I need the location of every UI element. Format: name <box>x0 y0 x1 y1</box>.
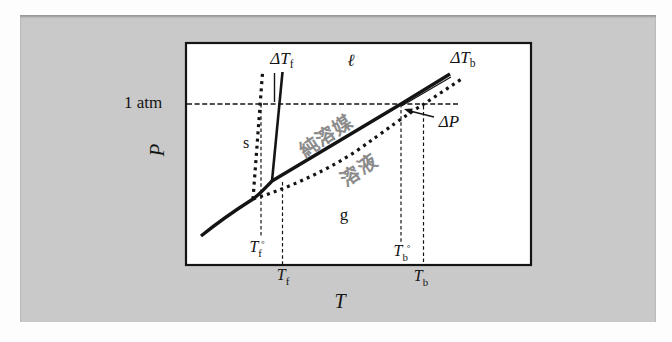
delta-tb-label: ΔTb <box>450 49 475 70</box>
delta-tf-label: ΔTf <box>270 50 293 71</box>
plot-area <box>186 43 531 265</box>
liquid-region-label: ℓ <box>347 52 354 69</box>
y-axis-label: P <box>147 144 168 157</box>
figure-canvas: 1 atm P T ΔTf ΔTb ΔP ℓ s g 純溶媒 溶液 Tf° Tf… <box>0 0 672 342</box>
tick-tf-label: Tf <box>277 267 290 286</box>
one-atm-label: 1 atm <box>124 94 162 111</box>
x-axis-label: T <box>334 291 345 311</box>
gas-region-label: g <box>340 206 349 223</box>
tick-tf0-label: Tf° <box>249 239 264 258</box>
tick-tb-label: Tb <box>414 268 428 287</box>
delta-p-label: ΔP <box>439 113 459 130</box>
tick-tb0-label: Tb° <box>393 243 410 262</box>
solid-region-label: s <box>243 135 249 151</box>
